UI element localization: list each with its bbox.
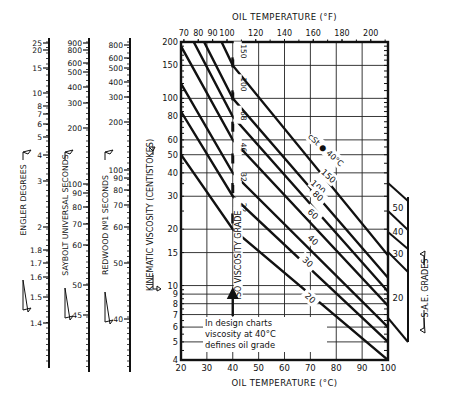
y-tick: 4 — [173, 355, 178, 365]
y-tick: 100 — [162, 93, 178, 103]
scale-tick-label: 7 — [37, 110, 42, 119]
scale-tick-label: 1.5 — [30, 293, 42, 302]
scale-tick-label: 400 — [109, 78, 124, 87]
y-tick: 150 — [162, 60, 178, 70]
y-tick: 7 — [173, 310, 178, 320]
y-tick: 30 — [168, 191, 178, 201]
x-tick-c: 90 — [357, 363, 368, 373]
scale-title: SAYBOLT UNIVERSAL SECONDS — [61, 154, 70, 276]
y-tick: 40 — [168, 168, 178, 178]
sae-grade-40: 40 — [393, 227, 404, 237]
y-tick: 60 — [168, 135, 178, 145]
x-tick-f: 80 — [193, 29, 203, 38]
scale-tick-label: 200 — [68, 124, 83, 133]
scale-arrow-icon — [105, 150, 113, 160]
sae-arrow-icon — [420, 318, 425, 333]
y-tick: 15 — [168, 248, 178, 258]
scale-arrow-icon — [23, 150, 31, 160]
sae-grade-30: 30 — [393, 249, 404, 259]
scale-tick-label: 20 — [32, 46, 42, 55]
sae-grade-20: 20 — [393, 293, 404, 303]
scale-tick-label: 300 — [109, 93, 124, 102]
scale-tick-label: 90 — [72, 189, 82, 198]
scale-tick-label: 70 — [113, 201, 123, 210]
x-tick-c: 40 — [227, 363, 238, 373]
scale-tick-label: 400 — [68, 83, 83, 92]
x-tick-f: 90 — [208, 29, 218, 38]
scale-tick-label: 70 — [72, 220, 82, 229]
y-tick: 200 — [162, 37, 178, 47]
scale-tick-label: 200 — [109, 118, 124, 127]
iso-title: ISO VISCOSITY GRADE — [234, 211, 243, 300]
scale-tick-label: 60 — [113, 223, 123, 232]
scale-arrow-icon — [105, 292, 113, 324]
scale-tick-label: 1.4 — [30, 319, 42, 328]
sae-grades-scale: 50403020S.A.E. GRADES — [388, 183, 430, 342]
sae-title: S.A.E. GRADES — [421, 259, 430, 318]
conversion-scales: 2520151087654321.81.71.61.51.4ENGLER DEG… — [19, 38, 130, 372]
y-tick: 5 — [173, 337, 178, 347]
x-tick-c: 30 — [201, 363, 212, 373]
annotation-note: In design charts viscosity at 40°C defin… — [203, 317, 327, 352]
scale-tick-label: 60 — [72, 241, 82, 250]
annotation-line-2: viscosity at 40°C — [205, 329, 325, 340]
x-axis-title-f: OIL TEMPERATURE (°F) — [232, 12, 337, 22]
x-tick-f: 200 — [363, 29, 378, 38]
scale-tick-label: 300 — [68, 99, 83, 108]
scale-tick-label: 1.8 — [30, 246, 42, 255]
scale-tick-label: 1.7 — [30, 259, 42, 268]
scale-tick-label: 2 — [37, 223, 42, 232]
iso-grade-68: 68 — [239, 111, 248, 121]
scale-tick-label: 600 — [68, 59, 83, 68]
scale-tick-label: 5 — [37, 133, 42, 142]
annotation-line-3: defines oil grade — [205, 340, 325, 351]
scale-tick-label: 3 — [37, 177, 42, 186]
x-tick-f: 100 — [219, 29, 234, 38]
scale-tick-label: 40 — [113, 315, 123, 324]
x-tick-c: 80 — [331, 363, 342, 373]
y-tick: 6 — [173, 322, 178, 332]
x-tick-c: 100 — [380, 363, 396, 373]
scale-tick-label: 800 — [109, 41, 124, 50]
scale-title: ENGLER DEGREES — [19, 164, 28, 235]
iso-grade-46: 46 — [239, 143, 248, 153]
scale-tick-label: 80 — [72, 203, 82, 212]
x-tick-f: 180 — [334, 29, 349, 38]
x-tick-f: 70 — [179, 29, 189, 38]
x-tick-c: 70 — [305, 363, 316, 373]
y-tick: 9 — [173, 289, 178, 299]
x-tick-c: 60 — [279, 363, 290, 373]
y-tick: 50 — [168, 150, 178, 160]
y-tick: 10 — [168, 281, 178, 291]
scale-tick-label: 50 — [113, 259, 123, 268]
scale-tick-label: 90 — [113, 174, 123, 183]
scale-tick-label: 1.6 — [30, 273, 42, 282]
sae-slant — [388, 318, 408, 342]
x-tick-c: 50 — [253, 363, 264, 373]
x-tick-f: 120 — [248, 29, 263, 38]
y-tick: 20 — [168, 224, 178, 234]
scale-tick-label: 500 — [109, 64, 124, 73]
sae-slant — [388, 183, 408, 201]
scale-tick-label: 800 — [68, 46, 83, 55]
sae-grade-50: 50 — [393, 203, 404, 213]
y-tick: 8 — [173, 299, 178, 309]
y-tick: 80 — [168, 111, 178, 121]
iso-grade-markers: 15010068463222ISO VISCOSITY GRADE — [227, 41, 248, 316]
iso-grade-100: 100 — [239, 77, 248, 92]
scale-tick-label: 6 — [37, 120, 42, 129]
iso-grade-32: 32 — [239, 172, 248, 182]
scale-title: REDWOOD Nº1 SECONDS — [101, 175, 110, 275]
scale-tick-label: 15 — [32, 64, 42, 73]
scale-tick-label: 500 — [68, 68, 83, 77]
scale-tick-label: 600 — [109, 54, 124, 63]
y-axis-title: KINEMATIC VISCOSITY (CENTISTOKES) — [146, 139, 155, 291]
x-tick-f: 140 — [277, 29, 292, 38]
scale-tick-label: 50 — [72, 281, 82, 290]
x-axis-title-c: OIL TEMPERATURE (°C) — [232, 378, 338, 388]
x-tick-f: 160 — [306, 29, 321, 38]
scale-tick-label: 4 — [37, 151, 42, 160]
scale-tick-label: 10 — [32, 89, 42, 98]
annotation-line-1: In design charts — [205, 318, 325, 329]
iso-grade-150: 150 — [239, 44, 248, 59]
